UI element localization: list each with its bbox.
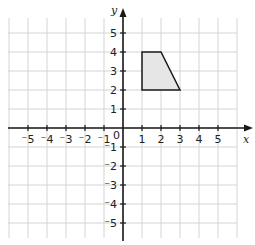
y-axis-label: y (110, 4, 118, 17)
y-tick-label: ⁻4 (104, 198, 117, 211)
y-tick-label: ⁻2 (104, 160, 117, 173)
y-tick-label: 4 (110, 46, 117, 59)
origin-label: 0 (113, 129, 120, 142)
coordinate-plane: ⁻5⁻4⁻3⁻2⁻112345⁻5⁻4⁻3⁻2⁻112345 x y 0 (0, 0, 255, 245)
y-axis-arrow-icon (120, 8, 127, 17)
x-axis-arrow-icon (244, 125, 253, 132)
axes (8, 8, 253, 241)
y-tick-label: ⁻5 (104, 217, 117, 230)
y-tick-label: ⁻1 (104, 141, 117, 154)
x-tick-label: 5 (215, 133, 222, 146)
x-tick-label: 1 (139, 133, 146, 146)
y-tick-label: 1 (110, 103, 117, 116)
x-axis-label: x (243, 133, 250, 146)
x-tick-label: ⁻2 (79, 133, 92, 146)
y-tick-label: 2 (110, 84, 117, 97)
x-tick-label: ⁻3 (60, 133, 73, 146)
x-tick-label: ⁻4 (41, 133, 54, 146)
x-tick-label: ⁻5 (22, 133, 35, 146)
y-tick-label: 3 (110, 65, 117, 78)
x-tick-label: 2 (158, 133, 165, 146)
x-tick-label: 3 (177, 133, 184, 146)
y-tick-label: ⁻3 (104, 179, 117, 192)
x-tick-label: 4 (196, 133, 203, 146)
y-tick-label: 5 (110, 27, 117, 40)
